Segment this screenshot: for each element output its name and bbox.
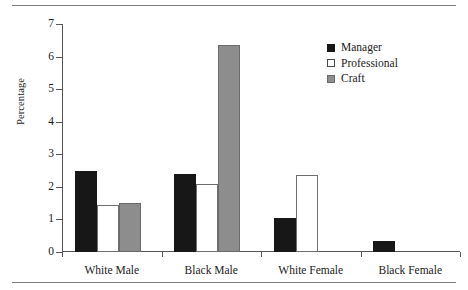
y-tick-mark — [56, 219, 62, 220]
y-axis-line — [62, 24, 63, 252]
legend-item-label: Professional — [341, 56, 398, 72]
legend-item-manager: Manager — [327, 40, 398, 56]
chart-legend: ManagerProfessionalCraft — [327, 40, 398, 87]
bar-manager-black-female — [373, 241, 395, 252]
plot-area: 01234567 White MaleBlack MaleWhite Femal… — [62, 24, 460, 252]
legend-item-craft: Craft — [327, 71, 398, 87]
x-tick-mark — [62, 252, 63, 257]
y-tick-label: 2 — [36, 181, 54, 193]
x-category-label: Black Male — [162, 264, 262, 276]
legend-swatch-professional-icon — [327, 59, 335, 67]
legend-item-professional: Professional — [327, 56, 398, 72]
bar-manager-black-male — [174, 174, 196, 252]
bar-craft-black-male — [218, 45, 240, 252]
y-tick-mark — [56, 154, 62, 155]
bar-manager-white-female — [274, 218, 296, 252]
y-tick-mark — [56, 122, 62, 123]
y-tick-label: 1 — [36, 213, 54, 225]
legend-swatch-craft-icon — [327, 75, 335, 83]
x-tick-mark — [460, 252, 461, 257]
y-axis-title: Percentage — [15, 56, 26, 148]
y-tick-mark — [56, 89, 62, 90]
y-tick-mark — [56, 57, 62, 58]
y-tick-label: 6 — [36, 51, 54, 63]
y-tick-label: 5 — [36, 83, 54, 95]
legend-swatch-manager-icon — [327, 44, 335, 52]
y-tick-mark — [56, 24, 62, 25]
x-tick-mark — [261, 252, 262, 257]
bar-manager-white-male — [75, 171, 97, 252]
x-category-label: Black Female — [361, 264, 461, 276]
bar-professional-black-male — [196, 184, 218, 252]
y-tick-label: 0 — [36, 246, 54, 258]
legend-item-label: Craft — [341, 71, 365, 87]
x-tick-mark — [162, 252, 163, 257]
bar-craft-white-male — [119, 203, 141, 252]
bar-professional-white-male — [97, 205, 119, 252]
bar-chart-figure: Percentage 01234567 White MaleBlack Male… — [0, 0, 468, 290]
bar-professional-white-female — [296, 175, 318, 252]
y-tick-mark — [56, 187, 62, 188]
y-tick-label: 3 — [36, 148, 54, 160]
x-category-label: White Female — [261, 264, 361, 276]
x-tick-mark — [361, 252, 362, 257]
y-tick-label: 7 — [36, 18, 54, 30]
x-category-label: White Male — [62, 264, 162, 276]
legend-item-label: Manager — [341, 40, 382, 56]
y-tick-label: 4 — [36, 116, 54, 128]
